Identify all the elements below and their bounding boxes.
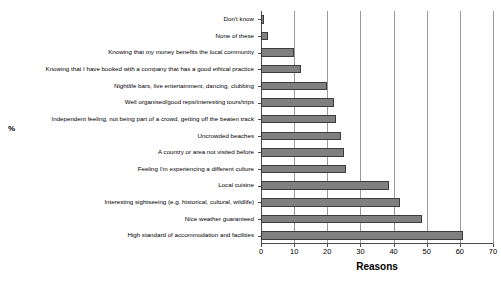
category-label: Nice weather guaranteed [185, 211, 254, 228]
bar[interactable] [261, 148, 344, 157]
plot-area [261, 11, 493, 244]
bar[interactable] [261, 32, 268, 41]
category-label: Independent feeling, not being part of a… [52, 111, 255, 128]
x-axis-line [261, 243, 493, 244]
x-axis-title: Reasons [261, 261, 493, 272]
category-label: Local cuisine [218, 177, 254, 194]
category-label: Interesting sightseeing (e.g. historical… [104, 194, 254, 211]
category-label: Well organised/good reps/interesting tou… [125, 94, 254, 111]
y-tick-mark [258, 36, 261, 37]
x-tick-label-70: 70 [489, 247, 497, 256]
x-tick-label-30: 30 [356, 247, 364, 256]
bar-row[interactable] [261, 44, 493, 61]
bar[interactable] [261, 98, 334, 107]
y-tick-mark [258, 219, 261, 220]
bar[interactable] [261, 181, 389, 190]
bar-row[interactable] [261, 161, 493, 178]
bar-row[interactable] [261, 61, 493, 78]
y-tick-mark [258, 136, 261, 137]
category-label: Knowing that my money benefits the local… [108, 44, 254, 61]
category-label: Nightlife bars, live entertainment, danc… [114, 78, 254, 95]
category-label: Feeling I'm experiencing a different cul… [138, 161, 254, 178]
category-label: Uncrowded beaches [198, 128, 254, 145]
bar[interactable] [261, 82, 327, 91]
x-tick-label-40: 40 [389, 247, 397, 256]
bar-row[interactable] [261, 111, 493, 128]
bar-chart: % Don't knowNone of theseKnowing that my… [0, 0, 501, 284]
x-tick-label-50: 50 [423, 247, 431, 256]
bar[interactable] [261, 115, 336, 124]
gridline-70 [493, 11, 494, 244]
bar-row[interactable] [261, 78, 493, 95]
y-tick-mark [258, 53, 261, 54]
y-tick-mark [258, 86, 261, 87]
bar-rows [261, 11, 493, 244]
bar-row[interactable] [261, 128, 493, 145]
x-tick-label-0: 0 [259, 247, 263, 256]
x-tick-label-20: 20 [323, 247, 331, 256]
y-tick-mark [258, 169, 261, 170]
y-tick-mark [258, 202, 261, 203]
category-label: Knowing that I have booked with a compan… [46, 61, 254, 78]
bar[interactable] [261, 15, 264, 24]
y-tick-mark [258, 152, 261, 153]
bar-row[interactable] [261, 94, 493, 111]
bar[interactable] [261, 165, 346, 174]
bar[interactable] [261, 132, 341, 141]
bar[interactable] [261, 231, 463, 240]
bar-row[interactable] [261, 177, 493, 194]
category-label: None of these [215, 28, 254, 45]
y-tick-mark [258, 119, 261, 120]
category-label: Don't know [224, 11, 254, 28]
y-tick-mark [258, 186, 261, 187]
bar-row[interactable] [261, 194, 493, 211]
bar-row[interactable] [261, 227, 493, 244]
bar[interactable] [261, 198, 400, 207]
y-tick-mark [258, 103, 261, 104]
bar-row[interactable] [261, 144, 493, 161]
bar[interactable] [261, 48, 294, 57]
x-tick-label-60: 60 [456, 247, 464, 256]
bar-row[interactable] [261, 11, 493, 28]
x-tick-label-10: 10 [290, 247, 298, 256]
x-axis-ticks: 010203040506070 [261, 247, 493, 259]
y-tick-mark [258, 236, 261, 237]
y-tick-mark [258, 69, 261, 70]
category-label: A country or area not visited before [158, 144, 254, 161]
bar-row[interactable] [261, 211, 493, 228]
y-tick-mark [258, 19, 261, 20]
bar[interactable] [261, 215, 422, 224]
category-label: High standard of accommodation and facil… [127, 227, 254, 244]
bar[interactable] [261, 65, 301, 74]
bar-row[interactable] [261, 28, 493, 45]
category-axis-labels: Don't knowNone of theseKnowing that my m… [0, 11, 258, 244]
